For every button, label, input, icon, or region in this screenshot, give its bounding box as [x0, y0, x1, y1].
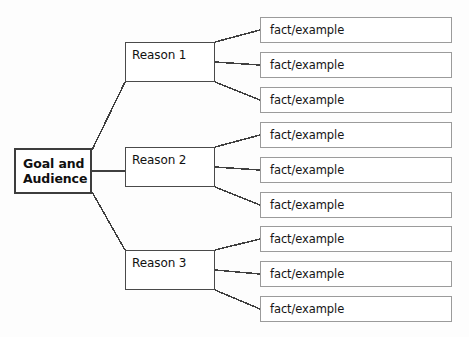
node-fact-example-2-3[interactable]: fact/example [260, 192, 452, 218]
connector-reason-2-to-fact-2-3 [215, 187, 260, 205]
connector-reason-1-to-fact-1-3 [215, 82, 260, 100]
node-fact-example-2-2-label: fact/example [270, 164, 344, 177]
node-goal-and-audience-label: Goal and Audience [23, 156, 87, 186]
node-reason-2[interactable]: Reason 2 [125, 147, 215, 187]
node-fact-example-1-1[interactable]: fact/example [260, 17, 452, 43]
node-reason-3[interactable]: Reason 3 [125, 250, 215, 290]
node-goal-and-audience-label-line2: Audience [23, 171, 87, 186]
node-fact-example-1-3[interactable]: fact/example [260, 87, 452, 113]
connector-reason-2-to-fact-2-2 [215, 167, 260, 170]
node-fact-example-1-1-label: fact/example [270, 24, 344, 37]
node-fact-example-2-2[interactable]: fact/example [260, 157, 452, 183]
node-fact-example-2-1[interactable]: fact/example [260, 122, 452, 148]
connector-reason-1-to-fact-1-2 [215, 62, 260, 65]
node-fact-example-3-2[interactable]: fact/example [260, 261, 452, 287]
connector-goal-and-audience-to-reason-1 [92, 82, 125, 150]
node-fact-example-1-2[interactable]: fact/example [260, 52, 452, 78]
connector-reason-1-to-fact-1-1 [215, 30, 260, 42]
node-goal-and-audience[interactable]: Goal and Audience [14, 148, 92, 194]
node-fact-example-2-1-label: fact/example [270, 129, 344, 142]
diagram-canvas: Goal and Audience Reason 1 Reason 2 Reas… [0, 0, 469, 337]
node-fact-example-1-2-label: fact/example [270, 59, 344, 72]
node-fact-example-3-3[interactable]: fact/example [260, 296, 452, 322]
connector-reason-3-to-fact-3-2 [215, 270, 260, 274]
node-fact-example-1-3-label: fact/example [270, 94, 344, 107]
node-goal-and-audience-label-line1: Goal and [23, 156, 84, 171]
node-reason-1-label: Reason 1 [132, 48, 186, 62]
connector-reason-2-to-fact-2-1 [215, 135, 260, 147]
node-fact-example-3-1-label: fact/example [270, 233, 344, 246]
node-reason-1[interactable]: Reason 1 [125, 42, 215, 82]
connector-goal-and-audience-to-reason-3 [92, 192, 125, 250]
node-fact-example-3-3-label: fact/example [270, 303, 344, 316]
node-reason-3-label: Reason 3 [132, 256, 186, 270]
node-reason-2-label: Reason 2 [132, 153, 186, 167]
node-fact-example-3-1[interactable]: fact/example [260, 226, 452, 252]
connector-reason-3-to-fact-3-1 [215, 239, 260, 250]
node-fact-example-2-3-label: fact/example [270, 199, 344, 212]
connector-reason-3-to-fact-3-3 [215, 290, 260, 309]
node-fact-example-3-2-label: fact/example [270, 268, 344, 281]
